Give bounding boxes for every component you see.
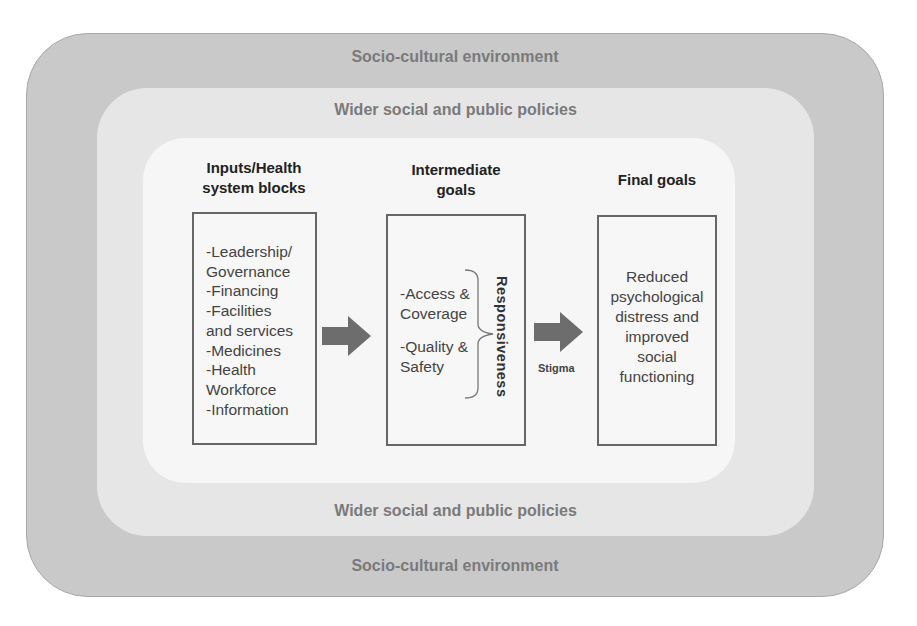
intermediate-heading-line1: Intermediate <box>386 160 526 180</box>
arrow-right-icon <box>322 316 372 358</box>
intermediate-box: -Access & Coverage -Quality & Safety Res… <box>386 214 526 446</box>
intermediate-item: Coverage <box>400 304 470 324</box>
inputs-item: and services <box>206 321 293 341</box>
inputs-item: -Health <box>206 360 293 380</box>
final-goals-line: psychological <box>599 287 715 307</box>
final-goals-line: distress and <box>599 307 715 327</box>
inputs-box: -Leadership/ Governance -Financing -Faci… <box>192 212 317 445</box>
inputs-heading-line2: system blocks <box>188 178 320 198</box>
intermediate-spacer <box>400 323 470 337</box>
intermediate-item: -Access & <box>400 284 470 304</box>
intermediate-item: Safety <box>400 357 470 377</box>
responsiveness-label: Responsiveness <box>494 276 510 397</box>
final-goals-line: functioning <box>599 367 715 387</box>
curly-brace-icon <box>463 268 497 400</box>
final-goals-heading: Final goals <box>597 170 717 190</box>
final-goals-line: Reduced <box>599 267 715 287</box>
intermediate-list: -Access & Coverage -Quality & Safety <box>400 284 470 377</box>
wider-policies-label-bottom: Wider social and public policies <box>97 502 814 520</box>
arrow-right-icon <box>534 312 584 354</box>
intermediate-heading: Intermediate goals <box>386 160 526 200</box>
inputs-list: -Leadership/ Governance -Financing -Faci… <box>206 242 293 419</box>
socio-cultural-label-bottom: Socio-cultural environment <box>27 557 883 575</box>
final-goals-heading-text: Final goals <box>597 170 717 190</box>
socio-cultural-label-top: Socio-cultural environment <box>27 48 883 66</box>
inputs-item: -Financing <box>206 281 293 301</box>
intermediate-item: -Quality & <box>400 337 470 357</box>
final-goals-line: improved <box>599 327 715 347</box>
inputs-item: Governance <box>206 262 293 282</box>
intermediate-heading-line2: goals <box>386 180 526 200</box>
final-goals-line: social <box>599 347 715 367</box>
final-goals-box: Reduced psychological distress and impro… <box>597 215 717 446</box>
inputs-heading-line1: Inputs/Health <box>188 158 320 178</box>
inputs-item: -Medicines <box>206 341 293 361</box>
inputs-item: Workforce <box>206 380 293 400</box>
inputs-item: -Leadership/ <box>206 242 293 262</box>
wider-policies-label-top: Wider social and public policies <box>97 101 814 119</box>
final-goals-text: Reduced psychological distress and impro… <box>599 267 715 387</box>
stigma-label: Stigma <box>538 362 575 374</box>
inputs-heading: Inputs/Health system blocks <box>188 158 320 198</box>
inputs-item: -Information <box>206 400 293 420</box>
inputs-item: -Facilities <box>206 301 293 321</box>
